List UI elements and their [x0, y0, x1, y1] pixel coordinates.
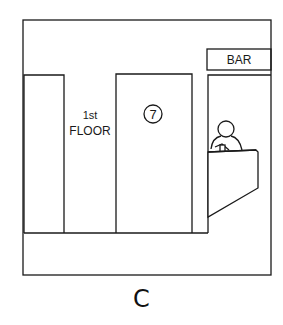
- scene-diagram: 1st FLOOR 7 BAR: [0, 0, 283, 325]
- bar-sign-label: BAR: [227, 53, 252, 67]
- floor-sign-line2: FLOOR: [69, 124, 111, 138]
- door-number: 7: [149, 107, 156, 122]
- figure-caption: C: [0, 284, 283, 314]
- floor-sign-line1: 1st: [83, 109, 98, 121]
- elevator-door: [116, 74, 192, 233]
- bar-counter: [208, 150, 258, 217]
- left-pillar: [24, 75, 64, 233]
